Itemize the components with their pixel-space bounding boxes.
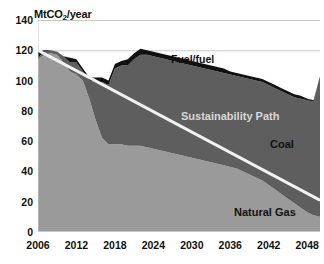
x-axis-tick-2012: 2012 (65, 239, 88, 251)
x-axis-tick-2042: 2042 (257, 239, 280, 251)
x-axis-tick-2030: 2030 (180, 239, 203, 251)
y-axis-unit-pre: MtCO (34, 8, 63, 20)
emissions-area-chart: MtCO2/year 140120100806040200 Fuel/fuel … (0, 0, 324, 264)
x-axis-tick-2036: 2036 (219, 239, 242, 251)
y-axis-tick-140: 140 (3, 14, 33, 26)
y-axis-tick-100: 100 (3, 75, 33, 87)
x-axis-tick-2048: 2048 (295, 239, 318, 251)
y-axis-tick-60: 60 (3, 135, 33, 147)
y-axis-tick-120: 120 (3, 44, 33, 56)
y-axis-tick-labels: 140120100806040200 (0, 0, 33, 264)
x-axis-tick-2024: 2024 (142, 239, 165, 251)
y-axis-unit-label: MtCO2/year (34, 8, 91, 20)
y-axis-tick-40: 40 (3, 165, 33, 177)
x-axis-tick-2018: 2018 (103, 239, 126, 251)
y-axis-tick-20: 20 (3, 196, 33, 208)
plot-area: Fuel/fuel Sustainability Path Coal Natur… (38, 20, 320, 232)
gridlines (38, 21, 320, 51)
y-axis-unit-post: /year (67, 8, 92, 20)
x-axis-tick-2006: 2006 (26, 239, 49, 251)
chart-svg (38, 20, 320, 232)
y-axis-tick-80: 80 (3, 105, 33, 117)
y-axis-tick-0: 0 (3, 226, 33, 238)
